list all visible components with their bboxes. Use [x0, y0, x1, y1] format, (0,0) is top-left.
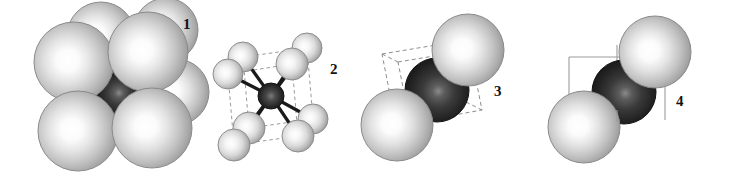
panel-label-3: 3 — [494, 84, 502, 99]
atom-sphere-light-corner — [432, 14, 504, 86]
atom-sphere-light-corner — [276, 48, 308, 80]
atom-sphere-light — [38, 91, 118, 171]
crystal-structure-figure: 1 2 3 4 — [0, 0, 734, 177]
structure-canvas — [0, 0, 734, 177]
atom-sphere-light — [34, 22, 114, 102]
atom-sphere-light — [108, 12, 188, 92]
atom-sphere-dark-center — [258, 83, 284, 109]
atom-sphere-light-corner — [218, 129, 250, 161]
atom-sphere-light-corner — [361, 89, 433, 161]
atom-sphere-light-corner — [213, 59, 243, 89]
panel-label-2: 2 — [330, 62, 338, 77]
atom-sphere-light-corner — [548, 91, 620, 163]
panel-2-ball-and-stick-model — [213, 33, 328, 161]
panel-3-body-diagonal-model — [361, 14, 504, 161]
panel-label-4: 4 — [676, 94, 684, 109]
atom-sphere-light-corner — [282, 120, 314, 152]
atom-sphere-light — [112, 88, 192, 168]
atom-sphere-light-corner — [619, 16, 691, 88]
panel-4-body-diagonal-plain-model — [548, 16, 691, 163]
panel-label-1: 1 — [183, 17, 191, 32]
